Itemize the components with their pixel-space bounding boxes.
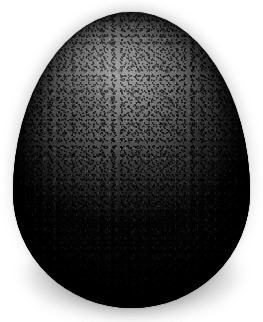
image-canvas: [0, 0, 263, 322]
